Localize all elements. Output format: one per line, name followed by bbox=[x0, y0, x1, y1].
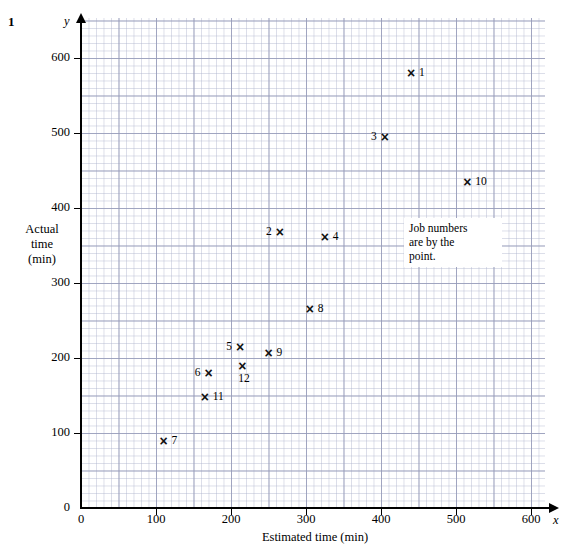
x-axis-tick-label: 600 bbox=[509, 512, 553, 527]
data-point-label: 7 bbox=[172, 434, 178, 446]
y-axis-arrow-icon bbox=[76, 13, 86, 23]
cross-marker-icon: × bbox=[303, 300, 317, 318]
x-axis-tick-label: 500 bbox=[434, 512, 478, 527]
annotation-line-3: point. bbox=[409, 249, 497, 263]
cross-marker-icon: × bbox=[202, 364, 216, 382]
annotation-line-2: are by the bbox=[409, 235, 497, 249]
y-axis-title: Actual time (min) bbox=[10, 222, 74, 267]
x-axis-tick-label: 200 bbox=[209, 512, 253, 527]
y-axis-tick-label: 600 bbox=[30, 50, 70, 65]
cross-marker-icon: × bbox=[404, 64, 418, 82]
data-point-label: 1 bbox=[419, 66, 425, 78]
y-axis-tick bbox=[74, 208, 81, 209]
y-axis-tick-label: 400 bbox=[30, 200, 70, 215]
cross-marker-icon: × bbox=[262, 344, 276, 362]
data-point-label: 10 bbox=[475, 175, 487, 187]
y-axis-line bbox=[80, 22, 82, 509]
cross-marker-icon: × bbox=[273, 223, 287, 241]
cross-marker-icon: × bbox=[157, 432, 171, 450]
y-axis-tick-label: 300 bbox=[30, 275, 70, 290]
x-axis-tick-label: 0 bbox=[59, 512, 103, 527]
y-axis-tick bbox=[74, 133, 81, 134]
cross-marker-icon: × bbox=[460, 173, 474, 191]
data-point-label: 4 bbox=[333, 230, 339, 242]
y-axis-tick bbox=[74, 58, 81, 59]
data-point-label: 9 bbox=[277, 346, 283, 358]
y-axis-title-line-3: (min) bbox=[10, 252, 74, 267]
y-axis-tick-label: 500 bbox=[30, 125, 70, 140]
y-axis-tick bbox=[74, 283, 81, 284]
y-axis-title-line-1: Actual bbox=[10, 222, 74, 237]
x-axis-tick-label: 400 bbox=[359, 512, 403, 527]
cross-marker-icon: × bbox=[378, 128, 392, 146]
data-point-label: 3 bbox=[371, 130, 377, 142]
data-point-label: 11 bbox=[213, 390, 224, 402]
data-point-label: 6 bbox=[195, 366, 201, 378]
x-axis-tick-label: 100 bbox=[134, 512, 178, 527]
y-axis-letter: y bbox=[64, 14, 70, 29]
cross-marker-icon: × bbox=[198, 388, 212, 406]
y-axis-tick bbox=[74, 358, 81, 359]
annotation-line-1: Job numbers bbox=[409, 221, 497, 235]
question-number: 1 bbox=[8, 14, 15, 30]
x-axis-title: Estimated time (min) bbox=[180, 530, 450, 545]
data-point-label: 8 bbox=[318, 302, 324, 314]
y-axis-tick-label: 100 bbox=[30, 425, 70, 440]
cross-marker-icon: × bbox=[233, 338, 247, 356]
annotation-note: Job numbers are by the point. bbox=[404, 218, 502, 267]
x-axis-letter: x bbox=[553, 513, 559, 528]
x-axis-tick-label: 300 bbox=[284, 512, 328, 527]
data-point-label: 2 bbox=[266, 225, 272, 237]
data-point-label: 5 bbox=[226, 340, 232, 352]
y-axis-tick bbox=[74, 433, 81, 434]
y-axis-title-line-2: time bbox=[10, 237, 74, 252]
cross-marker-icon: × bbox=[318, 228, 332, 246]
data-point-label: 12 bbox=[238, 372, 250, 384]
x-axis-line bbox=[81, 507, 550, 509]
y-axis-tick-label: 200 bbox=[30, 350, 70, 365]
scatter-plot-figure: 1 y x 0100200300400500600010020030040050… bbox=[0, 0, 568, 550]
